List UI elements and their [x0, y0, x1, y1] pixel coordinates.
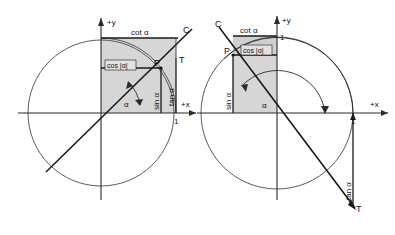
- right-point-C-label: C: [215, 19, 222, 29]
- right-tick-label-y: 1: [280, 33, 285, 42]
- left-y-axis-arrowhead: [98, 18, 104, 26]
- right-cos-label: cos |α|: [243, 47, 264, 55]
- right-angle-label: α: [262, 101, 267, 110]
- right-tan-label: tan α: [344, 182, 353, 200]
- right-point-P-marker: [231, 53, 234, 56]
- left-point-T-label: T: [179, 55, 185, 65]
- right-sin-label: sin α: [224, 93, 233, 110]
- trigonometry-unit-circle-figure: +y +x cot α C T P 1 α cos |α| sin α tan …: [0, 0, 395, 235]
- left-diagram: +y +x cot α C T P 1 α cos |α| sin α tan …: [18, 18, 196, 200]
- left-y-axis-label: +y: [107, 18, 116, 27]
- right-diagram: +y +x cot α C T P 1 1 α cos |α| sin α ta…: [197, 16, 388, 214]
- left-cot-label: cot α: [131, 28, 149, 37]
- right-terminal-ray: [219, 27, 355, 208]
- left-point-C-label: C: [183, 25, 190, 35]
- left-cos-label: cos |α|: [107, 62, 128, 70]
- right-point-T-label: T: [356, 204, 362, 214]
- right-y-axis-arrowhead: [274, 16, 280, 24]
- left-sin-label: sin α: [152, 93, 161, 110]
- right-tick-label-x: 1: [351, 117, 356, 126]
- left-tan-label: tan α: [167, 88, 176, 106]
- left-x-axis-arrowhead: [189, 110, 196, 116]
- right-x-axis-arrowhead: [381, 110, 388, 116]
- figure-canvas: +y +x cot α C T P 1 α cos |α| sin α tan …: [0, 0, 395, 235]
- right-x-axis-label: +x: [370, 100, 379, 109]
- left-angle-label: α: [124, 100, 129, 109]
- left-point-P-label: P: [154, 58, 160, 68]
- left-tick-label-1: 1: [174, 117, 179, 126]
- right-y-axis-label: +y: [282, 16, 291, 25]
- left-x-axis-label: +x: [181, 100, 190, 109]
- right-point-P-label: P: [224, 46, 230, 56]
- right-cot-label: cot α: [240, 26, 258, 35]
